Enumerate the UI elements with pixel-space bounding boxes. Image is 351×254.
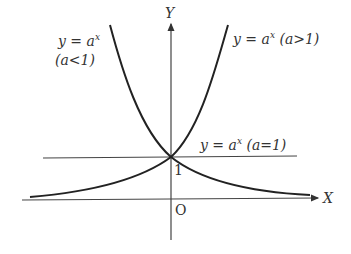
label-decreasing-eq: y = ax — [58, 32, 100, 49]
intercept-label: 1 — [174, 162, 183, 178]
y-axis-label: Y — [165, 5, 174, 21]
label-constant: y = ax (a=1) — [200, 136, 286, 153]
origin-label: O — [175, 202, 186, 218]
x-axis — [22, 198, 318, 200]
x-axis-label: X — [323, 190, 333, 206]
curve-a-less-than-1 — [110, 25, 310, 195]
exponential-function-diagram: Y X O 1 y = ax (a<1) y = ax (a>1) y = ax… — [0, 0, 351, 254]
label-decreasing-cond: (a<1) — [55, 52, 95, 68]
label-increasing: y = ax (a>1) — [233, 30, 319, 47]
curve-a-greater-than-1 — [30, 25, 228, 197]
